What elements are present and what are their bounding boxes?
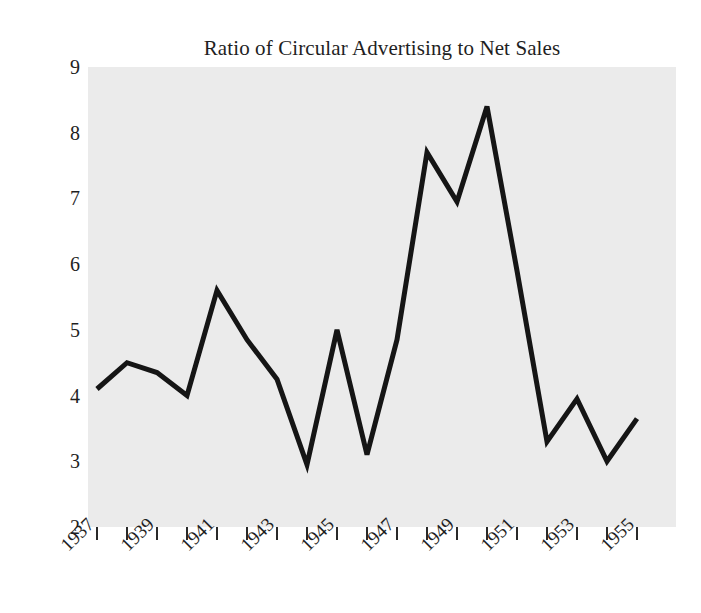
y-tick-label-8: 8	[50, 123, 80, 143]
y-tick-label-5: 5	[50, 320, 80, 340]
chart-figure: Ratio of Circular Advertising to Net Sal…	[0, 0, 701, 613]
y-tick-label-7: 7	[50, 188, 80, 208]
x-axis-tick-labels: 1937193919411943194519471949195119531955	[88, 541, 676, 613]
y-tick-label-4: 4	[50, 386, 80, 406]
y-tick-label-3: 3	[50, 451, 80, 471]
line-series-svg	[88, 67, 676, 527]
y-axis-tick-labels: 98765432	[42, 67, 80, 527]
y-tick-label-9: 9	[50, 57, 80, 77]
chart-title: Ratio of Circular Advertising to Net Sal…	[88, 36, 676, 61]
plot-area	[88, 67, 676, 527]
y-tick-label-6: 6	[50, 254, 80, 274]
series-line-percent-of-net-sales	[97, 106, 637, 464]
